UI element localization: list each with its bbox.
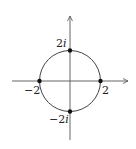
label-neg-2: −2 bbox=[24, 84, 40, 97]
point-neg-2 bbox=[37, 79, 41, 83]
label-neg-2i: −2i bbox=[49, 113, 69, 126]
label-2i: 2i bbox=[56, 37, 67, 50]
point-2i bbox=[68, 48, 72, 52]
label-2: 2 bbox=[102, 84, 109, 97]
complex-plane-diagram: 2i −2i −2 2 bbox=[0, 0, 136, 149]
point-2 bbox=[98, 79, 102, 83]
